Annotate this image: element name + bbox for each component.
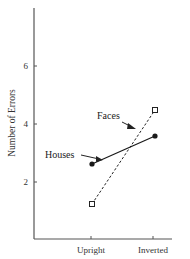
houses-annotation: Houses (45, 149, 75, 160)
y-axis-label: Number of Errors (7, 89, 17, 157)
y-tick-label-2: 2 (24, 177, 29, 187)
faces-annotation: Faces (97, 110, 120, 121)
x-tick-label-upright: Upright (77, 245, 105, 255)
faces-arrow-head (127, 123, 136, 129)
houses-marker-upright (89, 161, 94, 166)
x-tick-label-inverted: Inverted (138, 245, 168, 255)
faces-line (92, 110, 155, 204)
faces-marker-upright (90, 202, 95, 207)
houses-marker-inverted (152, 133, 157, 138)
y-tick-label-6: 6 (24, 61, 29, 71)
chart: 6 4 2 Upright Inverted Number of Errors … (0, 0, 190, 259)
faces-marker-inverted (153, 108, 158, 113)
y-tick-label-4: 4 (24, 119, 29, 129)
